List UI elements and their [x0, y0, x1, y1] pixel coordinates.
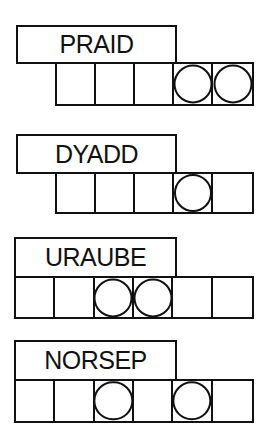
circle-marker-icon [213, 65, 252, 104]
scrambled-word-box: PRAID [16, 25, 177, 64]
answer-cells [14, 276, 254, 319]
scrambled-word: PRAID [60, 30, 134, 59]
answer-cell[interactable] [173, 278, 212, 317]
circle-marker-icon [94, 278, 133, 317]
answer-cells [55, 172, 254, 214]
answer-cells [14, 379, 254, 423]
answer-cell[interactable] [174, 64, 213, 104]
answer-cell[interactable] [96, 174, 135, 212]
answer-cell[interactable] [134, 278, 173, 317]
answer-cell[interactable] [55, 278, 94, 317]
answer-cell[interactable] [213, 174, 252, 212]
answer-cell[interactable] [135, 64, 174, 104]
scrambled-word: URAUBE [45, 243, 146, 272]
answer-cell[interactable] [213, 278, 252, 317]
circle-marker-icon [172, 381, 211, 420]
answer-cell[interactable] [16, 381, 55, 421]
answer-cell[interactable] [16, 278, 55, 317]
circle-marker-icon [174, 174, 212, 212]
answer-cell[interactable] [55, 381, 94, 421]
answer-cell[interactable] [57, 174, 96, 212]
answer-cell[interactable] [213, 381, 252, 421]
answer-cells [55, 62, 254, 106]
answer-cell[interactable] [96, 64, 135, 104]
answer-cell[interactable] [213, 64, 252, 104]
circle-marker-icon [173, 65, 212, 104]
answer-cell[interactable] [135, 174, 174, 212]
scrambled-word: DYADD [55, 140, 138, 169]
scrambled-word-box: DYADD [16, 134, 177, 174]
answer-cell[interactable] [95, 278, 134, 317]
answer-cell[interactable] [57, 64, 96, 104]
circle-marker-icon [94, 381, 133, 420]
answer-cell[interactable] [134, 381, 173, 421]
scrambled-word-box: NORSEP [14, 340, 177, 381]
answer-cell[interactable] [95, 381, 134, 421]
scrambled-word: NORSEP [44, 346, 147, 375]
answer-cell[interactable] [173, 381, 212, 421]
scrambled-word-box: URAUBE [14, 237, 177, 278]
circle-marker-icon [133, 278, 172, 317]
answer-cell[interactable] [174, 174, 213, 212]
